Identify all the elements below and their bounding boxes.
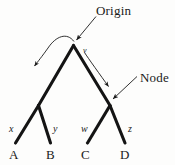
branch-root-to-right-node — [74, 46, 111, 106]
taxon-label-a: A — [9, 148, 19, 161]
node-callout-label: Node — [140, 71, 169, 84]
branch-y — [39, 106, 51, 144]
branch-w — [88, 106, 111, 144]
taxon-label-b: B — [46, 148, 55, 161]
node-callout-leader — [113, 77, 137, 100]
origin-callout-label: Origin — [96, 4, 131, 17]
taxon-label-d: D — [120, 148, 130, 161]
branch-label-w: w — [81, 124, 88, 134]
branch-label-z: z — [128, 124, 132, 134]
origin-sweep-arrow — [35, 36, 75, 66]
tree-branches — [16, 46, 126, 144]
branch-label-y: y — [53, 124, 57, 134]
branch-label-x: x — [9, 124, 13, 134]
branch-x — [16, 106, 39, 144]
origin-callout-leader — [77, 17, 97, 41]
internal-node-label-v: v — [83, 47, 87, 55]
taxon-label-c: C — [81, 148, 90, 161]
branch-z — [110, 106, 125, 144]
phylogenetic-tree-figure: Origin Node v x y w z A B C D — [0, 0, 175, 165]
